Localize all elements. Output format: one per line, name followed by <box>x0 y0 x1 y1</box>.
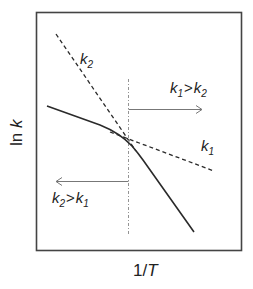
observed-rate-curve <box>47 106 194 232</box>
arrhenius-diagram: k2 k1 k1>k2 k2>k1 ln k 1/T <box>0 0 253 289</box>
k2-label: k2 <box>80 50 94 70</box>
k1-dashed-line <box>110 132 214 171</box>
k1-label: k1 <box>201 137 214 157</box>
x-axis-label: 1/T <box>133 261 159 280</box>
y-axis-label: ln k <box>7 118 26 146</box>
left-region-label: k2>k1 <box>52 189 89 209</box>
k2-dashed-line <box>56 34 136 151</box>
right-arrow <box>129 106 203 114</box>
left-arrow <box>56 178 129 186</box>
right-region-label: k1>k2 <box>170 79 207 99</box>
plot-frame <box>37 13 242 251</box>
